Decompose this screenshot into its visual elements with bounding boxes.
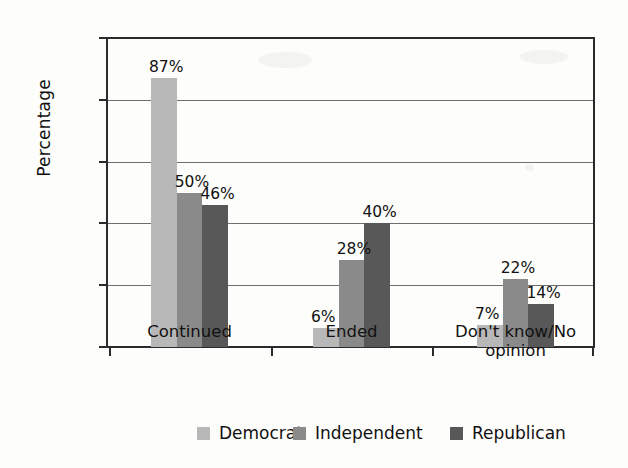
x-axis-label: Ended bbox=[267, 322, 437, 341]
bar-value-label: 46% bbox=[200, 185, 234, 203]
legend-item[interactable]: Democrat bbox=[197, 420, 303, 446]
legend-swatch-icon bbox=[293, 427, 306, 440]
gridline bbox=[106, 100, 593, 101]
x-axis-label-line: Continued bbox=[105, 322, 275, 341]
bar-chart-figure: Percentage 020406080100 87%50%46%6%28%40… bbox=[0, 0, 628, 468]
bar bbox=[151, 78, 177, 347]
y-axis-title: Percentage bbox=[34, 43, 54, 213]
legend-label: Democrat bbox=[219, 423, 303, 443]
x-tick-mark bbox=[109, 347, 111, 356]
bar-value-label: 28% bbox=[337, 240, 371, 258]
legend-item[interactable]: Independent bbox=[293, 420, 423, 446]
bar-value-label: 87% bbox=[149, 58, 183, 76]
y-tick-mark bbox=[99, 284, 108, 286]
gridline bbox=[106, 162, 593, 163]
legend-label: Republican bbox=[472, 423, 566, 443]
y-tick-mark bbox=[99, 37, 108, 39]
legend: DemocratIndependentRepublican bbox=[0, 420, 628, 446]
bar-value-label: 14% bbox=[526, 284, 560, 302]
x-tick-mark bbox=[271, 347, 273, 356]
gridline bbox=[106, 37, 593, 39]
plot-area: 020406080100 87%50%46%6%28%40%7%22%14% bbox=[106, 38, 593, 347]
legend-label: Independent bbox=[315, 423, 423, 443]
bar-value-label: 7% bbox=[475, 305, 500, 323]
y-tick-mark bbox=[99, 99, 108, 101]
legend-swatch-icon bbox=[197, 427, 210, 440]
legend-item[interactable]: Republican bbox=[450, 420, 566, 446]
y-tick-mark bbox=[99, 222, 108, 224]
bar-value-label: 22% bbox=[501, 259, 535, 277]
x-axis-label-line: opinion bbox=[431, 341, 601, 360]
legend-swatch-icon bbox=[450, 427, 463, 440]
x-axis-label: Continued bbox=[105, 322, 275, 341]
bar-value-label: 40% bbox=[362, 203, 396, 221]
x-axis-label: Don't know/Noopinion bbox=[431, 322, 601, 360]
y-tick-mark bbox=[99, 346, 108, 348]
plot-right-border bbox=[593, 37, 595, 348]
y-axis-line bbox=[106, 37, 108, 348]
y-tick-mark bbox=[99, 161, 108, 163]
x-axis-label-line: Don't know/No bbox=[431, 322, 601, 341]
x-axis-label-line: Ended bbox=[267, 322, 437, 341]
